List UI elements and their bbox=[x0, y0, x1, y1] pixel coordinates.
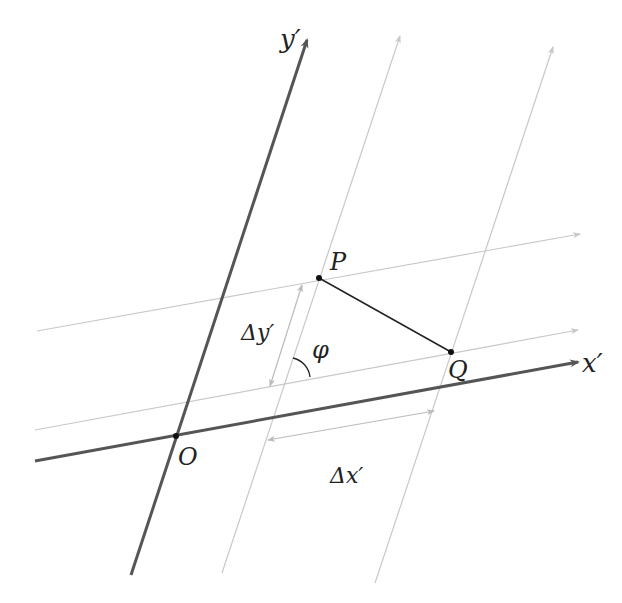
angle-phi-arc bbox=[293, 358, 310, 377]
y-prime-label: y′ bbox=[279, 24, 301, 54]
delta-x-label: Δx′ bbox=[329, 463, 363, 488]
origin-label: O bbox=[178, 443, 198, 471]
point-p-label: P bbox=[329, 248, 347, 276]
grid-line-horizontal-p bbox=[37, 234, 580, 331]
segment-pq bbox=[319, 278, 451, 352]
grid-line-horizontal-q bbox=[35, 330, 578, 430]
angle-phi-label: φ bbox=[312, 336, 329, 364]
x-prime-label: x′ bbox=[582, 348, 603, 378]
y-prime-axis bbox=[131, 40, 307, 575]
grid-line-through-q bbox=[375, 47, 553, 583]
delta-y-dimension bbox=[270, 285, 302, 386]
point-p bbox=[316, 275, 322, 281]
x-prime-axis bbox=[35, 362, 578, 461]
oblique-coordinates-diagram: y′ x′ O P Q Δy′ φ Δx′ bbox=[0, 0, 622, 603]
point-q-label: Q bbox=[448, 356, 468, 384]
grid-line-through-p bbox=[222, 36, 400, 573]
point-q bbox=[448, 349, 454, 355]
origin-point bbox=[173, 433, 179, 439]
delta-y-label: Δy′ bbox=[240, 320, 274, 345]
